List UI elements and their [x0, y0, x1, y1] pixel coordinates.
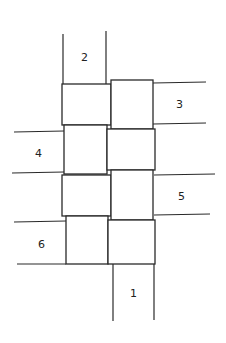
weave-cell-r1c2 [111, 80, 153, 129]
strip-6-label: 6 [38, 238, 45, 251]
weave-cell-r2c2 [107, 129, 155, 170]
strip-3-label: 3 [176, 98, 183, 111]
strip-5-label: 5 [178, 190, 185, 203]
strip-3: 3 [153, 82, 206, 124]
weave-cell-r1c1 [62, 84, 111, 125]
weave-cell-r2c1 [64, 125, 107, 174]
weave-cell-r3c1 [62, 175, 111, 216]
strip-4: 4 [12, 131, 64, 173]
strip-2: 2 [63, 31, 106, 84]
strip-1-label: 1 [130, 287, 137, 300]
strip-4-label: 4 [35, 147, 42, 160]
strip-5: 5 [154, 174, 215, 215]
strip-2-label: 2 [81, 51, 88, 64]
strip-1: 1 [113, 264, 154, 321]
weave-cell-r4c2 [108, 220, 155, 264]
weave-diagram: 2 3 4 5 6 1 [0, 0, 226, 343]
weave-squares [62, 80, 155, 264]
weave-cell-r3c2 [111, 170, 153, 220]
weave-cell-r4c1 [66, 216, 108, 264]
weave-diagram-svg: 2 3 4 5 6 1 [0, 0, 226, 343]
strip-6: 6 [14, 221, 66, 264]
